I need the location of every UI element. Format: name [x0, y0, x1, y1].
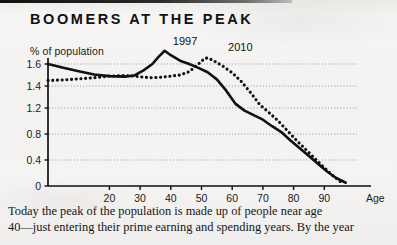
- x-tick-label-6: 80: [282, 192, 306, 204]
- y-tick-label-5: 1.6: [15, 58, 41, 70]
- x-tick-label-3: 50: [190, 192, 214, 204]
- y-tick-label-3: 1.2: [15, 102, 41, 114]
- caption-line-1: Today the peak of the population is made…: [8, 204, 389, 220]
- y-tick-label-0: 0: [15, 180, 41, 192]
- caption-line-2: 40—just entering their prime earning and…: [8, 220, 389, 236]
- x-tick-label-2: 40: [159, 192, 183, 204]
- x-tick-label-4: 60: [220, 192, 244, 204]
- x-tick-label-5: 70: [251, 192, 275, 204]
- series-2010: [48, 58, 343, 183]
- x-tick-label-0: 20: [97, 192, 121, 204]
- series-label-2010: 2010: [228, 41, 252, 53]
- article-caption: Today the peak of the population is made…: [8, 204, 389, 235]
- series-1997: [48, 51, 346, 183]
- y-tick-label-1: 0.4: [15, 154, 41, 166]
- x-tick-label-7: 90: [312, 192, 336, 204]
- series-label-1997: 1997: [173, 35, 197, 47]
- x-tick-label-1: 30: [128, 192, 152, 204]
- x-axis-caption: Age: [366, 192, 385, 204]
- y-tick-label-2: 0.8: [15, 128, 41, 140]
- y-tick-label-4: 1.4: [15, 80, 41, 92]
